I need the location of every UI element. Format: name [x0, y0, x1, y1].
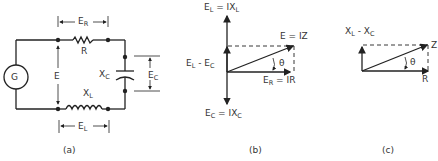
caption-c: (c)	[382, 145, 394, 155]
rlc-series-circuit-figure: G E R ER XC EC XL EL (a) EL = IXL EL - E…	[0, 0, 438, 161]
z-label: Z	[431, 40, 437, 50]
e-equals-iz-label: E = IZ	[280, 31, 308, 41]
resistor-voltage-label: ER	[78, 16, 89, 28]
theta-label-c: θ	[410, 57, 416, 67]
el-equals-ixl-label: EL = IXL	[204, 2, 239, 14]
theta-label-b: θ	[279, 58, 285, 68]
panel-c-impedance-diagram	[362, 45, 428, 71]
caption-a: (a)	[63, 145, 76, 155]
inductor-reactance-label: XL	[83, 88, 93, 100]
generator-label: G	[11, 72, 18, 82]
inductor-voltage-label: EL	[78, 121, 88, 133]
junction-dots	[56, 38, 127, 111]
resistor-symbol	[73, 37, 93, 43]
er-equals-ir-label: ER = IR	[263, 75, 295, 87]
r-label: R	[422, 74, 428, 84]
impedance-vector	[362, 45, 427, 71]
source-voltage-label: E	[54, 71, 60, 81]
xl-minus-xc-label: XL - XC	[345, 26, 375, 38]
ec-equals-ixc-label: EC = IXC	[205, 108, 242, 120]
angle-arc-c	[405, 57, 407, 69]
caption-b: (b)	[249, 145, 262, 155]
panel-a-circuit	[4, 37, 134, 109]
capacitor-reactance-label: XC	[99, 69, 110, 81]
resistor-label: R	[81, 46, 87, 56]
angle-arc-b	[273, 58, 275, 70]
el-minus-ec-label: EL - EC	[186, 58, 215, 70]
inductor-symbol	[66, 106, 102, 110]
